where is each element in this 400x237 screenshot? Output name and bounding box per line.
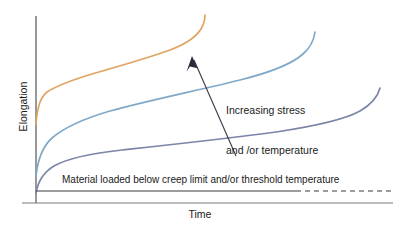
threshold-caption: Material loaded below creep limit and/or… (62, 174, 339, 187)
increasing-stress-annotation-line1: Increasing stress (226, 104, 318, 117)
creep-curve-figure: Elongation Time Increasing stress and /o… (0, 0, 400, 237)
y-axis-label: Elongation (17, 67, 30, 147)
plot-area (0, 0, 400, 237)
increasing-stress-annotation: Increasing stress and /or temperature (226, 78, 318, 183)
increasing-stress-annotation-line2: and /or temperature (226, 144, 318, 157)
x-axis-label: Time (160, 208, 240, 221)
